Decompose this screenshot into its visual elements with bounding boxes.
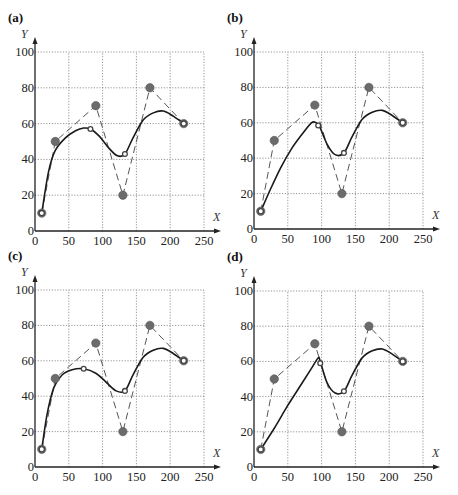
y-tick-label: 80 <box>22 318 35 332</box>
x-axis-title: X <box>212 446 221 460</box>
curve-point-marker <box>400 120 405 125</box>
curve-point-marker <box>400 359 405 364</box>
y-tick-label: 60 <box>22 354 35 368</box>
curve-point-marker <box>81 366 86 371</box>
axes <box>252 276 441 470</box>
y-tick-label: 20 <box>241 187 254 201</box>
control-point-marker <box>119 191 127 199</box>
y-tick-label: 40 <box>22 152 35 166</box>
grid <box>254 52 423 229</box>
x-tick-label: 100 <box>312 470 331 484</box>
fitted-curve <box>42 348 184 449</box>
figure: (a)YX050100150200250020406080100(b)YX050… <box>0 0 458 495</box>
control-point-marker <box>51 137 59 145</box>
panel-label: (b) <box>227 10 243 25</box>
curve-point-marker <box>181 358 186 363</box>
control-point-marker <box>311 101 319 109</box>
x-axis-title: X <box>431 446 440 460</box>
y-tick-label: 20 <box>241 425 254 439</box>
y-axis-arrow-icon <box>33 37 38 44</box>
y-tick-label: 40 <box>241 390 254 404</box>
x-tick-label: 200 <box>380 470 399 484</box>
control-point-marker <box>51 374 59 382</box>
x-tick-label: 100 <box>93 234 112 248</box>
x-tick-label: 200 <box>161 234 180 248</box>
y-tick-label: 20 <box>22 188 35 202</box>
fitted-curve <box>261 110 403 211</box>
control-point-marker <box>365 322 373 330</box>
control-point-marker <box>338 428 346 436</box>
y-tick-label: 100 <box>234 284 253 298</box>
y-axis-arrow-icon <box>33 275 38 282</box>
control-point-marker <box>311 340 319 348</box>
chart-panel-c: (c)YX050100150200250020406080100 <box>8 248 221 484</box>
grid <box>35 52 204 231</box>
y-tick-label: 40 <box>22 389 35 403</box>
chart-panel-b: (b)YX050100150200250020406080100 <box>227 10 440 246</box>
grid <box>35 290 204 467</box>
y-tick-label: 60 <box>22 117 35 131</box>
curve-point-marker <box>342 389 347 394</box>
y-tick-label: 0 <box>28 224 34 238</box>
x-tick-label: 250 <box>195 470 214 484</box>
y-axis-title: Y <box>240 266 248 280</box>
y-tick-label: 100 <box>234 45 253 59</box>
y-tick-label: 80 <box>241 319 254 333</box>
x-tick-label: 150 <box>127 470 146 484</box>
x-tick-label: 200 <box>161 470 180 484</box>
chart-panel-d: (d)YX050100150200250020406080100 <box>227 249 440 484</box>
x-tick-label: 250 <box>414 232 433 246</box>
control-point-marker <box>365 83 373 91</box>
grid <box>254 291 423 467</box>
chart-panel-a: (a)YX050100150200250020406080100 <box>8 10 221 248</box>
x-axis-title: X <box>212 210 221 224</box>
axes <box>33 37 222 234</box>
control-point-marker <box>270 375 278 383</box>
y-tick-label: 60 <box>241 116 254 130</box>
y-axis-arrow-icon <box>252 37 257 44</box>
y-axis-arrow-icon <box>252 276 257 283</box>
x-tick-label: 250 <box>414 470 433 484</box>
control-polygon-line <box>261 87 403 211</box>
x-tick-label: 100 <box>312 232 331 246</box>
control-point-marker <box>92 339 100 347</box>
fitted-curve <box>42 111 184 213</box>
control-point-marker <box>119 427 127 435</box>
fitted-curve <box>261 349 403 450</box>
curve-point-marker <box>88 127 93 132</box>
axes <box>33 275 222 470</box>
y-tick-label: 100 <box>15 283 34 297</box>
control-point-marker <box>270 136 278 144</box>
x-tick-label: 250 <box>195 234 214 248</box>
y-tick-label: 0 <box>28 460 34 474</box>
x-tick-label: 150 <box>346 232 365 246</box>
curve-point-marker <box>39 211 44 216</box>
curve-point-marker <box>258 209 263 214</box>
curve-point-marker <box>318 361 323 366</box>
x-tick-label: 50 <box>63 470 76 484</box>
panel-label: (d) <box>227 249 243 264</box>
x-tick-label: 50 <box>63 234 76 248</box>
x-tick-label: 50 <box>282 232 295 246</box>
x-tick-label: 150 <box>127 234 146 248</box>
x-tick-label: 100 <box>93 470 112 484</box>
control-point-marker <box>146 321 154 329</box>
y-tick-label: 60 <box>241 354 254 368</box>
y-tick-label: 20 <box>22 425 35 439</box>
panel-label: (c) <box>8 248 22 263</box>
control-point-marker <box>92 102 100 110</box>
x-tick-label: 200 <box>380 232 399 246</box>
y-tick-label: 0 <box>247 222 253 236</box>
y-tick-label: 100 <box>15 45 34 59</box>
x-axis-title: X <box>431 208 440 222</box>
control-polygon-line <box>42 88 184 213</box>
curve-point-marker <box>316 123 321 128</box>
curve-point-marker <box>181 121 186 126</box>
curve-point-marker <box>342 150 347 155</box>
curve-point-marker <box>123 152 128 157</box>
y-tick-label: 80 <box>22 81 35 95</box>
control-point-marker <box>146 84 154 92</box>
curve-point-marker <box>258 447 263 452</box>
x-axis-arrow-icon <box>433 465 440 470</box>
x-tick-label: 150 <box>346 470 365 484</box>
